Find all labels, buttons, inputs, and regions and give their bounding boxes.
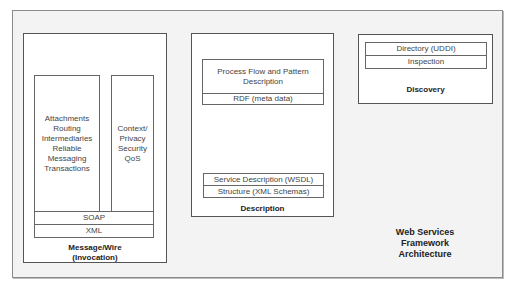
feature-context: Context/ xyxy=(118,124,148,134)
feature-routing: Routing xyxy=(42,124,93,134)
feature-messaging: Messaging xyxy=(42,154,93,164)
label-line: Message/Wire xyxy=(23,243,167,253)
feature-transactions: Transactions xyxy=(42,164,93,174)
label-line: (Invocation) xyxy=(23,253,167,263)
rdf-box: RDF (meta data) xyxy=(202,93,324,105)
description-label: Description xyxy=(191,204,334,214)
discovery-label: Discovery xyxy=(358,85,493,95)
feature-intermediaries: Intermediaries xyxy=(42,134,93,144)
feature-privacy: Privacy xyxy=(118,134,148,144)
feature-reliable: Reliable xyxy=(42,144,93,154)
diagram-title: Web Services Framework Architecture xyxy=(360,227,490,260)
context-box: Context/ Privacy Security QoS xyxy=(111,75,154,212)
title-line: Web Services xyxy=(360,227,490,238)
feature-qos: QoS xyxy=(118,154,148,164)
message-wire-label: Message/Wire (Invocation) xyxy=(23,243,167,263)
inspection-box: Inspection xyxy=(365,55,487,69)
title-line: Architecture xyxy=(360,249,490,260)
soap-layer: SOAP xyxy=(34,211,154,225)
xml-schemas-box: Structure (XML Schemas) xyxy=(203,185,324,198)
feature-attachments: Attachments xyxy=(42,114,93,124)
process-flow-box: Process Flow and Pattern Description xyxy=(202,59,324,94)
directory-uddi-box: Directory (UDDI) xyxy=(365,42,487,56)
title-line: Framework xyxy=(360,238,490,249)
qos-features-box: Attachments Routing Intermediaries Relia… xyxy=(34,75,100,212)
feature-security: Security xyxy=(118,144,148,154)
xml-layer: XML xyxy=(34,224,154,238)
